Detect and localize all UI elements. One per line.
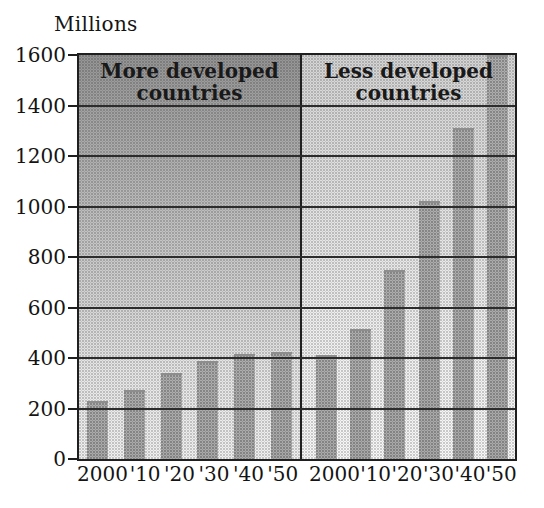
bar-less-developed-20 — [384, 270, 405, 459]
y-tick-mark-1200 — [68, 155, 77, 157]
y-tick-mark-800 — [68, 256, 77, 258]
x-axis-labels-more-developed: 2000'10'20'30'40'50 — [77, 462, 300, 486]
y-axis-title: Millions — [54, 12, 138, 36]
bar-less-developed-50 — [487, 55, 508, 459]
plot-area: More developed countries Less developed … — [77, 53, 517, 461]
y-tick-label-800: 800 — [0, 245, 66, 269]
bar-less-developed-2000 — [316, 355, 337, 459]
bar-slot — [446, 55, 480, 459]
x-axis-labels: 2000'10'20'30'40'50 2000'10'20'30'40'50 — [77, 462, 517, 486]
bar-slot — [309, 55, 343, 459]
panel-title-line1: More developed — [79, 60, 300, 82]
bar-slot — [79, 55, 116, 459]
bar-slot — [412, 55, 446, 459]
x-tick-label-less-developed: '30 — [423, 462, 454, 486]
y-tick-mark-600 — [68, 307, 77, 309]
bars-group-less-developed — [302, 55, 515, 459]
bar-more-developed-50 — [271, 352, 292, 459]
y-tick-label-1000: 1000 — [0, 195, 66, 219]
panel-title-line1: Less developed — [302, 60, 515, 82]
bar-slot — [226, 55, 263, 459]
bar-slot — [189, 55, 226, 459]
y-tick-mark-1400 — [68, 105, 77, 107]
x-tick-label-less-developed: '50 — [486, 462, 517, 486]
bar-less-developed-40 — [453, 128, 474, 459]
bar-slot — [378, 55, 412, 459]
bar-slot — [343, 55, 377, 459]
panel-more-developed: More developed countries — [79, 55, 300, 459]
panel-title-line2: countries — [79, 82, 300, 104]
bar-more-developed-10 — [124, 390, 145, 459]
bar-slot — [481, 55, 515, 459]
y-tick-label-600: 600 — [0, 296, 66, 320]
bar-slot — [116, 55, 153, 459]
panel-less-developed: Less developed countries — [302, 55, 515, 459]
population-bar-chart-figure: Millions 02004006008001000120014001600 M… — [0, 0, 544, 508]
y-tick-mark-0 — [68, 458, 77, 460]
y-tick-mark-200 — [68, 408, 77, 410]
x-tick-label-more-developed: '40 — [231, 462, 265, 486]
bar-less-developed-10 — [350, 329, 371, 459]
x-tick-label-less-developed: '10 — [360, 462, 391, 486]
bar-slot — [153, 55, 190, 459]
bar-more-developed-20 — [161, 373, 182, 459]
y-tick-label-1200: 1200 — [0, 144, 66, 168]
x-tick-label-more-developed: '20 — [162, 462, 196, 486]
panel-title-less-developed: Less developed countries — [302, 60, 515, 104]
bar-more-developed-30 — [197, 361, 218, 459]
bar-more-developed-2000 — [87, 401, 108, 459]
x-tick-label-less-developed: 2000 — [309, 462, 360, 486]
y-tick-mark-1600 — [68, 54, 77, 56]
y-tick-label-400: 400 — [0, 346, 66, 370]
y-tick-mark-400 — [68, 357, 77, 359]
x-tick-label-less-developed: '40 — [454, 462, 485, 486]
panel-title-more-developed: More developed countries — [79, 60, 300, 104]
x-tick-label-more-developed: 2000 — [77, 462, 128, 486]
y-tick-label-200: 200 — [0, 397, 66, 421]
y-tick-label-1400: 1400 — [0, 94, 66, 118]
x-axis-labels-less-developed: 2000'10'20'30'40'50 — [302, 462, 517, 486]
x-tick-label-more-developed: '50 — [266, 462, 300, 486]
bar-less-developed-30 — [419, 201, 440, 459]
x-tick-label-more-developed: '10 — [128, 462, 162, 486]
bar-slot — [263, 55, 300, 459]
y-tick-label-1600: 1600 — [0, 43, 66, 67]
bars-group-more-developed — [79, 55, 300, 459]
panel-title-line2: countries — [302, 82, 515, 104]
x-tick-label-more-developed: '30 — [197, 462, 231, 486]
bar-more-developed-40 — [234, 354, 255, 459]
x-tick-label-less-developed: '20 — [391, 462, 422, 486]
y-tick-mark-1000 — [68, 206, 77, 208]
y-tick-label-0: 0 — [0, 447, 66, 471]
